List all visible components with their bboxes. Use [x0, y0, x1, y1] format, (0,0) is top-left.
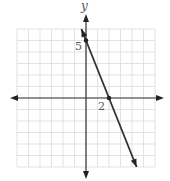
x-axis-right-arrow-icon: [156, 95, 164, 101]
y-axis-up-arrow-icon: [83, 14, 89, 22]
x-intercept-point: [107, 96, 111, 100]
y-axis-down-arrow-icon: [83, 171, 89, 179]
x-axis: [10, 95, 164, 101]
y-intercept-label: 5: [75, 40, 82, 53]
coordinate-plane: y 5 2: [0, 0, 170, 181]
y-axis-label: y: [80, 0, 88, 13]
y-intercept-point: [84, 38, 88, 42]
x-intercept-label: 2: [98, 100, 105, 113]
x-axis-left-arrow-icon: [10, 95, 18, 101]
